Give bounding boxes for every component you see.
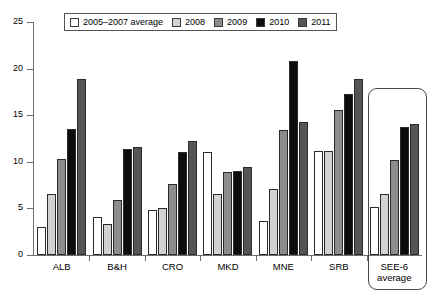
x-axis-category-label: SRB (311, 261, 366, 272)
bar (289, 61, 298, 255)
bar (133, 147, 142, 255)
bar (344, 94, 353, 255)
bar (113, 200, 122, 255)
y-axis-tick (27, 162, 33, 163)
bar (324, 151, 333, 255)
x-axis-category-label: ALB (34, 261, 89, 272)
bar (188, 141, 197, 255)
bar (269, 189, 278, 255)
bar-group (89, 22, 144, 255)
bar (178, 152, 187, 255)
legend-swatch (214, 18, 223, 27)
bar (354, 79, 363, 255)
bar (123, 149, 132, 255)
bar (103, 224, 112, 255)
bar-group (200, 22, 255, 255)
bar (158, 208, 167, 255)
bar (213, 194, 222, 256)
chart-legend: 2005–2007 average2008200920102011 (64, 13, 337, 31)
bar-group (256, 22, 311, 255)
y-axis-tick-label: 25 (0, 17, 23, 26)
bar (37, 227, 46, 255)
legend-label: 2005–2007 average (83, 18, 163, 27)
legend-item: 2010 (256, 18, 289, 27)
y-axis-tick-label: 10 (0, 157, 23, 166)
y-axis-tick (27, 255, 33, 256)
legend-item: 2008 (172, 18, 205, 27)
bar (279, 130, 288, 255)
y-axis-tick (27, 208, 33, 209)
x-axis-tick (200, 256, 201, 261)
x-axis-line (33, 255, 422, 256)
bar-chart: 2005–2007 average2008200920102011 051015… (0, 0, 439, 307)
bar (67, 129, 76, 255)
x-axis-category-label: MKD (200, 261, 255, 272)
legend-swatch (70, 18, 79, 27)
legend-label: 2008 (185, 18, 205, 27)
x-axis-category-label: CRO (145, 261, 200, 272)
bar (314, 151, 323, 255)
x-axis-tick (145, 256, 146, 261)
y-axis-tick (27, 115, 33, 116)
bar (299, 122, 308, 255)
y-axis-tick-label: 15 (0, 110, 23, 119)
legend-item: 2005–2007 average (70, 18, 163, 27)
y-axis-tick-label: 5 (0, 203, 23, 212)
legend-swatch (256, 18, 265, 27)
see6-highlight-box (368, 88, 427, 290)
legend-item: 2009 (214, 18, 247, 27)
x-axis-category-label: B&H (89, 261, 144, 272)
y-axis-tick (27, 22, 33, 23)
x-axis-category-label: MNE (256, 261, 311, 272)
bar (93, 217, 102, 255)
x-axis-tick (256, 256, 257, 261)
y-axis-tick (27, 69, 33, 70)
legend-swatch (298, 18, 307, 27)
y-axis-tick-label: 20 (0, 64, 23, 73)
bar-group (145, 22, 200, 255)
bar (259, 221, 268, 255)
plot-area (34, 22, 422, 255)
legend-swatch (172, 18, 181, 27)
bar (168, 184, 177, 255)
bar (203, 152, 212, 255)
bar (233, 171, 242, 255)
x-axis-tick (311, 256, 312, 261)
legend-label: 2011 (311, 18, 330, 27)
bar (57, 159, 66, 255)
bar (148, 210, 157, 255)
bar-group (34, 22, 89, 255)
legend-label: 2010 (269, 18, 289, 27)
legend-item: 2011 (298, 18, 330, 27)
bar (47, 194, 56, 255)
bar (243, 167, 252, 255)
bar (223, 172, 232, 255)
bar (334, 110, 343, 255)
bar (77, 79, 86, 255)
bar-group (311, 22, 366, 255)
x-axis-tick (89, 256, 90, 261)
legend-label: 2009 (227, 18, 247, 27)
y-axis-tick-label: 0 (0, 250, 23, 259)
